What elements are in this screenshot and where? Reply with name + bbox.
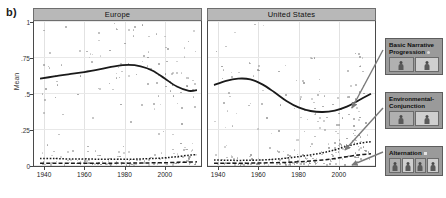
x-tick-mark	[84, 167, 85, 170]
legend-item-alternation[interactable]: Alternation	[385, 146, 443, 176]
legend-thumbnail-figure-icon	[399, 115, 404, 124]
legend-label-line1: Basic Narrative	[389, 41, 439, 48]
series-line-dotted	[40, 155, 197, 160]
legend-thumbnail-figure-icon	[424, 61, 429, 70]
plot-area-europe	[33, 21, 202, 167]
x-tick-mark	[258, 167, 259, 170]
legend-label-line1: Alternation	[389, 149, 439, 156]
facet-title-united-states-text: United States	[268, 10, 316, 19]
figure-root: b) Mean 1.75.5.250 Europe United States …	[0, 0, 446, 198]
x-tick-label: 1960	[77, 171, 91, 178]
legend-thumbnail-image	[389, 111, 414, 126]
x-tick-label: 1980	[117, 171, 131, 178]
series-lines	[208, 21, 376, 167]
legend-thumbnail-figure-icon	[424, 115, 429, 124]
x-tick-mark	[44, 167, 45, 170]
legend-label-line1: Environmental-	[389, 95, 439, 102]
facet-title-europe-text: Europe	[105, 10, 130, 19]
legend-label-line2: Conjunction	[389, 102, 439, 109]
legend-thumbnail-image	[415, 111, 440, 126]
legend-marker-circle-icon	[427, 51, 430, 54]
legend-thumbnail-image	[415, 57, 440, 72]
x-tick-mark	[339, 167, 340, 170]
legend-thumbnails	[389, 111, 439, 126]
legend-thumbnail-figure-icon	[392, 162, 397, 171]
facet-title-united-states: United States	[207, 8, 376, 21]
series-lines	[34, 21, 202, 167]
legend-item-environmental-conjunction[interactable]: Environmental- Conjunction	[385, 92, 443, 129]
series-line-dashed	[40, 162, 197, 163]
legend-thumbnail-image	[389, 57, 414, 72]
series-line-dashed	[214, 154, 371, 164]
legend-thumbnail-figure-icon	[405, 162, 410, 171]
legend-thumbnails	[389, 57, 439, 72]
series-line-solid	[40, 65, 197, 91]
legend-thumbnail-figure-icon	[418, 162, 423, 171]
legend-thumbnail-image	[389, 158, 401, 173]
x-tick-label: 1940	[211, 171, 225, 178]
y-tick-label: .25	[21, 127, 30, 134]
facet-title-europe: Europe	[33, 8, 202, 21]
x-tick-label: 2000	[158, 171, 172, 178]
legend-thumbnail-figure-icon	[399, 61, 404, 70]
facet-europe: Europe	[33, 8, 202, 167]
legend-item-basic-narrative-progression[interactable]: Basic Narrative Progression	[385, 38, 443, 75]
panel-label: b)	[6, 6, 17, 18]
x-tick-label: 2000	[332, 171, 346, 178]
x-tick-label: 1940	[37, 171, 51, 178]
x-tick-label: 1980	[291, 171, 305, 178]
legend-thumbnail-image	[427, 158, 439, 173]
y-tick-label: .75	[21, 55, 30, 62]
y-axis-title: Mean	[13, 52, 20, 112]
x-tick-mark	[125, 167, 126, 170]
x-tick-label: 1960	[251, 171, 265, 178]
legend-thumbnails	[389, 158, 439, 173]
x-tick-mark	[218, 167, 219, 170]
series-line-solid	[214, 78, 371, 112]
legend-thumbnail-figure-icon	[431, 162, 436, 171]
legend-thumbnail-image	[402, 158, 414, 173]
x-tick-mark	[299, 167, 300, 170]
legend-label-line2: Progression	[389, 48, 439, 55]
plot-area-united-states	[207, 21, 376, 167]
legend-marker-square-icon	[424, 152, 427, 155]
facet-united-states: United States	[207, 8, 376, 167]
series-line-dotted	[214, 142, 371, 161]
legend-thumbnail-image	[415, 158, 427, 173]
x-tick-mark	[165, 167, 166, 170]
